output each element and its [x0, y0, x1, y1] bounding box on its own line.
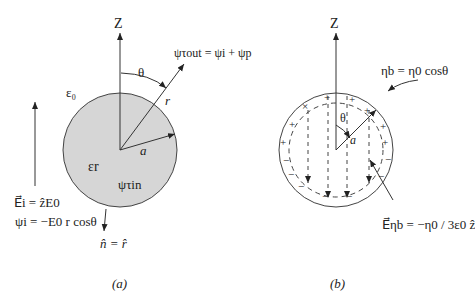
svg-text:−: − [346, 190, 352, 202]
figure-b: ++× +++ ++ −−− −−−− [279, 33, 418, 207]
normal-arrow [104, 209, 106, 231]
theta-label-a: θ [138, 66, 144, 79]
svg-text:−: − [385, 153, 391, 165]
inner-permittivity: εr [88, 160, 99, 174]
r-vector-label: r⃗ [165, 94, 180, 107]
svg-text:−: − [283, 154, 289, 166]
psi-in-label: ψτin [118, 178, 141, 191]
svg-text:−: − [322, 190, 328, 202]
theta-label-b: θ [340, 112, 346, 124]
incident-field-label: E⃗i = ẑE0 [14, 196, 60, 209]
svg-text:−: − [288, 168, 294, 180]
surface-charge-label: ηb = η0 cosθ [381, 64, 448, 77]
svg-text:+: + [380, 120, 386, 132]
charge-pointer [388, 80, 418, 91]
normal-label: n̂ = r̂ [100, 237, 127, 250]
z-axis-label-b: Z [330, 17, 339, 31]
svg-text:+: + [349, 93, 355, 105]
z-axis-label-a: Z [114, 17, 123, 31]
field-label-b: E⃗ηb = −η0 / 3ε0 ẑ [382, 218, 475, 231]
caption-a: (a) [112, 277, 127, 290]
svg-text:−: − [298, 180, 304, 192]
svg-text:+: + [289, 118, 295, 130]
caption-b: (b) [330, 277, 345, 290]
svg-text:×: × [302, 100, 308, 112]
svg-text:+: + [280, 136, 286, 148]
svg-text:+: + [364, 104, 370, 116]
svg-text:+: + [382, 136, 388, 148]
outer-permittivity: ε₀ [66, 86, 76, 99]
radius-label-b: a [350, 134, 356, 146]
incident-potential-label: ψi = −E0 r cosθ [15, 215, 97, 228]
psi-out-label: ψτout = ψi + ψp [174, 47, 252, 59]
radius-label-a: a [140, 144, 147, 157]
svg-text:−: − [378, 170, 384, 182]
svg-text:+: + [324, 91, 330, 103]
